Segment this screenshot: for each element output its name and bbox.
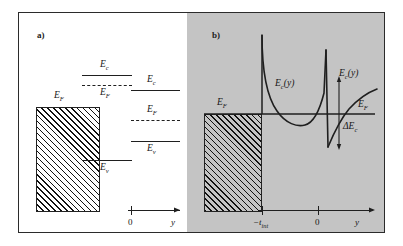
conduction-band-label-left-b: Ec(y) — [275, 78, 294, 90]
axis-arrowhead-a — [174, 208, 180, 213]
axis-origin-label-a: 0 — [128, 217, 133, 227]
axis-tick-interface-b — [262, 206, 263, 215]
axis-variable-label-b: y — [355, 217, 359, 227]
axis-tick-origin-b — [318, 206, 319, 215]
axis-origin-label-b: 0 — [315, 217, 320, 227]
delta-ec-label-b: ΔEc — [343, 121, 357, 133]
conduction-band-curve-right-b — [328, 89, 377, 147]
delta-ec-arrowhead-down-b — [337, 144, 341, 150]
fermi-level-label-b: EF — [358, 99, 368, 111]
conduction-band-discontinuity-b — [326, 50, 328, 147]
conduction-band-label-right-b: Ec(y) — [339, 68, 358, 80]
axis-line-b — [259, 210, 373, 211]
figure-frame: a) EF Ec EF Ev Ec EF Ev — [18, 12, 385, 233]
axis-arrow-svg-a — [19, 13, 187, 233]
axis-variable-label-a: y — [171, 217, 175, 227]
axis-interface-label-b: −tint — [253, 217, 268, 229]
panel-a: a) EF Ec EF Ev Ec EF Ev — [19, 13, 187, 232]
band-diagram-figure: a) EF Ec EF Ev Ec EF Ev — [0, 0, 403, 246]
panel-b: b) EF — [187, 13, 384, 232]
